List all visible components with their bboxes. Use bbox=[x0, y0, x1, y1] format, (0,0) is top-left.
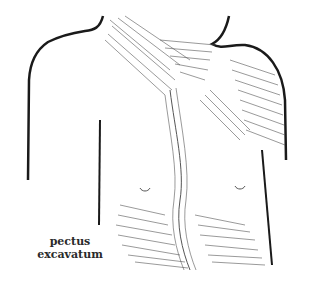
left-nipple bbox=[140, 188, 150, 191]
right-shoulder-outline bbox=[212, 16, 286, 160]
hatching bbox=[105, 16, 285, 270]
right-arm-inner-line bbox=[262, 150, 272, 265]
right-nipple bbox=[235, 186, 245, 189]
caption-line-1: pectus bbox=[30, 235, 110, 248]
left-shoulder-outline bbox=[28, 16, 103, 180]
figure-caption: pectus excavatum bbox=[30, 235, 110, 261]
figure-canvas: pectus excavatum bbox=[0, 0, 321, 287]
caption-line-2: excavatum bbox=[30, 248, 110, 261]
left-arm-inner-line bbox=[99, 120, 100, 225]
